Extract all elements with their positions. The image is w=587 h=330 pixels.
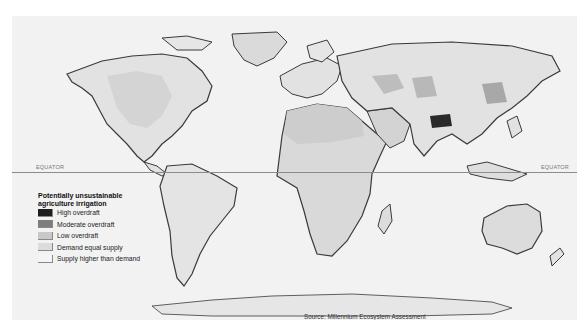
legend-swatch-equal [38,243,53,251]
greenland [232,32,287,66]
world-map-graphic [12,16,577,320]
equator-line [12,172,577,173]
legend-swatch-moderate [38,220,53,228]
legend-label: Moderate overdraft [57,221,114,228]
arctic-islands [162,36,212,50]
world-map: EQUATOR EQUATOR Potentially unsustainabl… [12,16,577,320]
madagascar [378,204,392,234]
legend-swatch-low [38,232,53,240]
south-america [160,164,237,286]
legend-item-moderate-overdraft: Moderate overdraft [38,219,148,231]
sahara [284,104,364,144]
new-zealand [550,248,564,266]
central-america [144,162,167,176]
legend-item-low-overdraft: Low overdraft [38,230,148,242]
equator-label-left: EQUATOR [36,164,64,170]
scandinavia [307,40,334,62]
legend-label: Supply higher than demand [57,255,140,262]
legend-swatch-high [38,209,53,217]
europe [280,58,342,98]
legend: Potentially unsustainable agriculture ir… [38,192,148,265]
legend-label: Demand equal supply [57,244,123,251]
legend-title: Potentially unsustainable agriculture ir… [38,192,148,207]
legend-label: Low overdraft [57,232,98,239]
equator-label-right: EQUATOR [541,164,569,170]
australia [482,204,542,254]
legend-label: High overdraft [57,209,100,216]
legend-item-high-overdraft: High overdraft [38,207,148,219]
source-credit: Source: Millennium Ecosystem Assessment [304,313,426,320]
japan-philippines [507,116,522,138]
legend-swatch-supply-higher [38,255,53,263]
legend-item-demand-equal-supply: Demand equal supply [38,242,148,254]
india-high-overdraft [430,114,452,128]
legend-item-supply-higher: Supply higher than demand [38,253,148,265]
